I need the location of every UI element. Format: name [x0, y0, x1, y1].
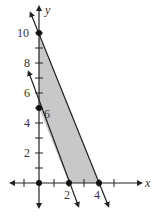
x-axis-label: x — [144, 176, 151, 190]
y-tick-label-4: 4 — [24, 116, 30, 130]
y-tick-label-10: 10 — [17, 26, 29, 40]
x-tick-label-4: 4 — [94, 188, 100, 202]
y-tick-label-6: 6 — [24, 86, 30, 100]
y-axis-label: y — [44, 3, 51, 17]
y-tick-label-2: 2 — [24, 146, 30, 160]
point-annotation-6: 6 — [44, 107, 50, 121]
graph: y x 10 8 6 6 4 2 2 4 — [0, 0, 156, 221]
x-tick-label-2: 2 — [64, 188, 70, 202]
y-tick-label-8: 8 — [24, 56, 30, 70]
